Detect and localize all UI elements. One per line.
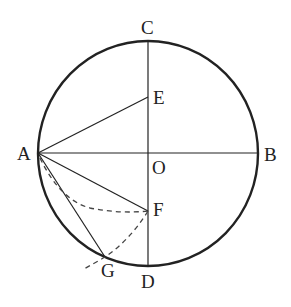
diagram-canvas: C E A B O F G D (0, 0, 291, 307)
label-d: D (141, 271, 155, 292)
label-o: O (152, 157, 166, 178)
label-g: G (101, 260, 115, 281)
label-c: C (141, 17, 154, 38)
label-b: B (264, 144, 277, 165)
segment-ae (38, 97, 148, 153)
segment-ag (38, 153, 105, 257)
label-e: E (153, 87, 165, 108)
geometry-diagram: C E A B O F G D (0, 0, 291, 307)
label-a: A (17, 143, 31, 164)
dashed-arc-a-f (40, 158, 148, 212)
label-f: F (153, 199, 164, 220)
